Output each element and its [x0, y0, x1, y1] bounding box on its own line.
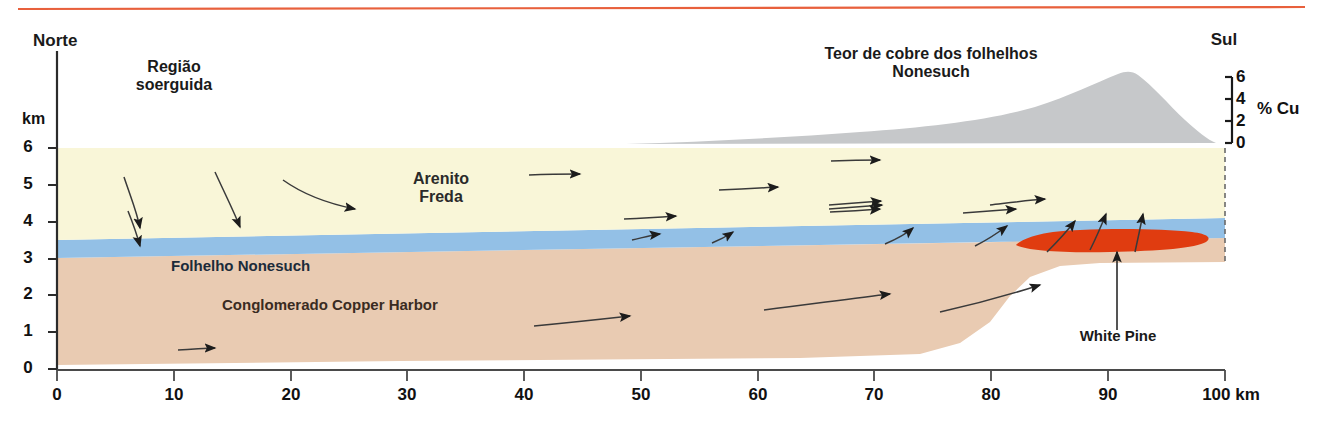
copper-grade-curve-title: Teor de cobre dos folhelhos Nonesuch [769, 45, 1093, 81]
depth-tick-0: 0 [14, 358, 42, 378]
depth-axis-ticks [48, 148, 57, 369]
copper-tick-2: 2 [1236, 111, 1252, 131]
copper-grade-curve [626, 72, 1216, 144]
depth-tick-2: 2 [14, 284, 42, 304]
layer-label-arenito-freda: Arenito Freda [381, 170, 501, 206]
copper-axis-unit-label: % Cu [1257, 99, 1300, 119]
distance-tick-30: 30 [387, 385, 427, 405]
depth-tick-1: 1 [14, 321, 42, 341]
layer-label-conglomerado-copper-harbor: Conglomerado Copper Harbor [222, 297, 438, 314]
depth-axis-unit-label: km [22, 110, 45, 128]
distance-tick-70: 70 [854, 385, 894, 405]
distance-tick-50: 50 [621, 385, 661, 405]
orientation-label-norte: Norte [33, 31, 77, 50]
depth-tick-5: 5 [14, 174, 42, 194]
distance-tick-20: 20 [271, 385, 311, 405]
layer-label-folhelho-nonesuch: Folhelho Nonesuch [171, 258, 310, 275]
depth-tick-6: 6 [14, 137, 42, 157]
copper-tick-4: 4 [1236, 89, 1252, 109]
distance-tick-10: 10 [154, 385, 194, 405]
distance-tick-40: 40 [504, 385, 544, 405]
copper-tick-6: 6 [1236, 67, 1252, 87]
copper-tick-0: 0 [1236, 133, 1252, 153]
depth-tick-3: 3 [14, 248, 42, 268]
distance-axis-ticks [57, 370, 1225, 381]
distance-tick-80: 80 [971, 385, 1011, 405]
top-divider-rule [18, 7, 1305, 9]
depth-tick-4: 4 [14, 211, 42, 231]
distance-tick-90: 90 [1088, 385, 1128, 405]
ore-body-label-white-pine: White Pine [1055, 328, 1181, 345]
copper-percent-axis [1225, 77, 1232, 143]
distance-tick-100: 100 km [1193, 385, 1269, 405]
uplifted-region-label: Região soerguida [106, 58, 242, 94]
orientation-label-sul: Sul [1193, 30, 1255, 49]
geologic-cross-section-figure: Norte Sul Região soerguida Teor de cobre… [0, 0, 1323, 427]
distance-tick-60: 60 [738, 385, 778, 405]
distance-tick-0: 0 [37, 385, 77, 405]
